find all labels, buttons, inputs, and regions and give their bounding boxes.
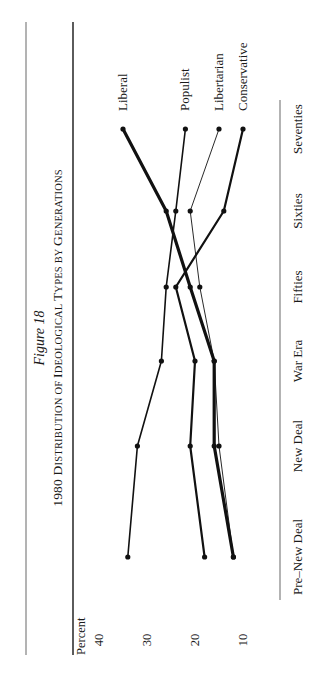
chart: Figure 18 1980 DISTRIBUTION OF IDEOLOGIC… bbox=[0, 0, 327, 700]
series-label-conservative: Conservative bbox=[235, 42, 250, 111]
y-axis-label: Percent bbox=[74, 617, 88, 655]
data-point bbox=[120, 126, 125, 131]
x-axis-categories: Pre–New DealNew DealWar EraFiftiesSixtie… bbox=[290, 104, 305, 595]
x-category-label: War Era bbox=[290, 339, 305, 382]
x-category-label: Fifties bbox=[290, 270, 305, 303]
data-point bbox=[173, 284, 178, 289]
y-tick-label: 30 bbox=[140, 634, 154, 647]
x-category-label: New Deal bbox=[290, 419, 305, 472]
data-point bbox=[183, 126, 188, 131]
series-label-libertarian: Libertarian bbox=[211, 53, 226, 111]
data-point bbox=[173, 208, 178, 213]
data-point bbox=[188, 443, 193, 448]
data-point bbox=[202, 554, 207, 559]
data-point bbox=[216, 443, 221, 448]
data-point bbox=[212, 443, 217, 448]
data-point bbox=[135, 443, 140, 448]
data-point bbox=[125, 554, 130, 559]
data-point bbox=[164, 284, 169, 289]
chart-title: 1980 DISTRIBUTION OF IDEOLOGICAL TYPES B… bbox=[50, 169, 65, 507]
x-category-label: Pre–New Deal bbox=[290, 519, 305, 596]
figure-label: Figure 18 bbox=[32, 310, 47, 366]
y-tick-label: 20 bbox=[188, 634, 202, 647]
data-point bbox=[192, 358, 197, 363]
x-category-label: Sixties bbox=[290, 193, 305, 228]
y-tick-label: 40 bbox=[92, 634, 106, 647]
data-point bbox=[240, 126, 245, 131]
series-labels: LiberalPopulistLibertarianConservative bbox=[115, 42, 250, 111]
series-label-liberal: Liberal bbox=[115, 73, 130, 111]
x-category-label: Seventies bbox=[290, 104, 305, 154]
y-tick-label: 10 bbox=[236, 634, 250, 647]
data-point bbox=[188, 208, 193, 213]
data-point bbox=[159, 358, 164, 363]
data-point bbox=[221, 208, 226, 213]
data-point bbox=[164, 208, 169, 213]
data-point bbox=[188, 284, 193, 289]
data-point bbox=[231, 554, 236, 559]
series-label-populist: Populist bbox=[177, 68, 192, 111]
y-axis-ticks: 40302010 bbox=[92, 634, 250, 647]
data-point bbox=[197, 284, 202, 289]
data-point bbox=[212, 358, 217, 363]
series-group bbox=[120, 126, 245, 559]
data-point bbox=[216, 126, 221, 131]
